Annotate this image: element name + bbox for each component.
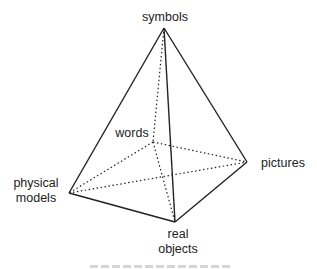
edge-left-front <box>69 193 175 222</box>
label-words: words <box>112 126 152 141</box>
figure-caption-truncated <box>90 262 230 269</box>
edge-apex-front <box>164 28 175 222</box>
label-real-objects: real objects <box>153 227 203 257</box>
label-real: real <box>153 227 203 242</box>
edge-front-right <box>175 162 247 222</box>
edge-apex-left <box>69 28 164 193</box>
hidden-edge-left-right <box>69 162 247 193</box>
label-pictures: pictures <box>255 156 311 171</box>
hidden-edge-back-left <box>69 142 153 193</box>
label-physical: physical <box>8 176 64 191</box>
label-objects: objects <box>153 242 203 257</box>
label-physical-models: physical models <box>8 176 64 206</box>
hidden-edge-back-right <box>153 142 247 162</box>
label-symbols: symbols <box>140 10 190 25</box>
edge-apex-right <box>164 28 247 162</box>
label-models: models <box>8 191 64 206</box>
